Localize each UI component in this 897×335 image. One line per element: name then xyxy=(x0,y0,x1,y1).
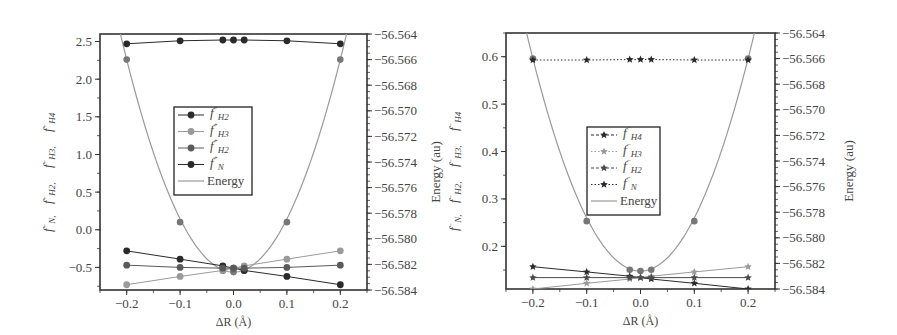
y-tick-label: 0.2 xyxy=(482,239,498,254)
legend-marker xyxy=(188,161,195,168)
y2-tick-label: −56.564 xyxy=(782,26,826,41)
y2-tick-label: −56.578 xyxy=(374,206,417,221)
figure: −0.2−0.10.00.10.2ΔR (Å)−0.50.00.51.01.52… xyxy=(0,0,897,335)
y2-axis-label: Energy (au) xyxy=(841,140,856,201)
x-tick-label: −0.2 xyxy=(115,296,139,311)
energy-point xyxy=(177,219,184,226)
data-point xyxy=(529,263,537,270)
x-axis: −0.2−0.10.00.10.2ΔR (Å) xyxy=(506,289,775,328)
data-point xyxy=(284,264,291,271)
data-point xyxy=(177,264,184,271)
y-axis-left: 0.20.30.40.50.6f−N,f−H2,f−H3,f−H4 xyxy=(446,33,506,270)
data-point xyxy=(337,281,344,288)
data-point xyxy=(691,56,699,63)
legend-marker xyxy=(188,112,195,119)
x-axis-label: ΔR (Å) xyxy=(623,314,658,328)
data-point xyxy=(691,279,699,286)
y2-tick-label: −56.576 xyxy=(374,180,418,195)
x-tick-label: 0.0 xyxy=(632,295,648,310)
data-point xyxy=(177,273,184,280)
y2-tick-label: −56.584 xyxy=(374,283,418,298)
chart-left: −0.2−0.10.00.10.2ΔR (Å)−0.50.00.51.01.52… xyxy=(40,0,443,329)
data-point xyxy=(284,256,291,263)
y-tick-label: 1.0 xyxy=(76,147,92,162)
data-point xyxy=(529,274,537,281)
data-point xyxy=(583,279,591,286)
legend: f⁺H2f⁺H3f⁺H2f⁺NEnergy xyxy=(174,105,252,195)
data-point xyxy=(230,265,237,272)
data-point xyxy=(123,40,130,47)
y2-tick-label: −56.582 xyxy=(374,257,417,272)
data-point xyxy=(637,56,645,63)
data-point xyxy=(241,37,248,44)
legend: f⁻H4f⁻H3f⁻H2f⁻NEnergy xyxy=(587,125,660,215)
x-tick-label: 0.2 xyxy=(332,296,348,311)
data-point xyxy=(744,274,752,281)
x-tick-label: −0.2 xyxy=(521,295,545,310)
data-point xyxy=(647,56,655,63)
y2-tick-label: −56.572 xyxy=(782,128,825,143)
y-axis-label-part: f+N, xyxy=(40,215,57,232)
energy-point xyxy=(583,218,590,225)
data-point xyxy=(337,40,344,47)
y-tick-label: 1.5 xyxy=(76,109,92,124)
y2-tick-label: −56.576 xyxy=(782,179,826,194)
energy-point xyxy=(284,219,291,226)
y2-axis-label: Energy (au) xyxy=(428,141,443,202)
energy-point xyxy=(637,268,644,275)
x-tick-label: 0.1 xyxy=(279,296,295,311)
data-point xyxy=(744,263,752,270)
data-point xyxy=(123,247,130,254)
energy-point xyxy=(337,56,344,63)
y-axis-right: −56.564−56.566−56.568−56.570−56.572−56.5… xyxy=(775,26,856,297)
y-axis-label: f+N,f+H2,f+H3,f+H4 xyxy=(40,112,57,232)
y2-tick-label: −56.578 xyxy=(782,205,825,220)
y-axis-label-part: f−H2, xyxy=(446,181,463,203)
y-axis-label-part: f−H3, xyxy=(446,145,463,167)
energy-point xyxy=(626,267,633,274)
legend-label: Energy xyxy=(207,173,245,188)
y2-tick-label: −56.580 xyxy=(782,230,825,245)
x-tick-label: 0.1 xyxy=(686,295,702,310)
y2-tick-label: −56.574 xyxy=(782,154,826,169)
y-axis-label-part: f−N, xyxy=(446,214,463,231)
series-fN xyxy=(529,56,752,64)
legend-marker xyxy=(188,128,195,135)
y-axis-label-part: f+H3, xyxy=(40,146,57,168)
data-point xyxy=(337,262,344,269)
y-tick-label: 0.5 xyxy=(76,185,92,200)
data-point xyxy=(626,56,634,63)
energy-point xyxy=(648,267,655,274)
data-point xyxy=(241,265,248,272)
data-point xyxy=(219,265,226,272)
y2-tick-label: −56.570 xyxy=(374,103,417,118)
x-tick-label: 0.0 xyxy=(225,296,241,311)
y-tick-label: 0.0 xyxy=(76,222,92,237)
data-point xyxy=(123,281,130,288)
data-point xyxy=(284,37,291,44)
y2-tick-label: −56.566 xyxy=(374,52,418,67)
data-point xyxy=(637,274,645,281)
y2-tick-label: −56.568 xyxy=(782,77,825,92)
y2-tick-label: −56.582 xyxy=(782,256,825,271)
data-point xyxy=(583,56,591,63)
y-axis-label-part: f+H4 xyxy=(40,112,57,132)
y-axis-label-part: f−H4 xyxy=(446,111,463,131)
data-point xyxy=(284,273,291,280)
series-fH4 xyxy=(123,262,343,272)
y2-tick-label: −56.564 xyxy=(374,27,418,42)
y2-tick-label: −56.574 xyxy=(374,155,418,170)
x-axis: −0.2−0.10.00.10.2ΔR (Å) xyxy=(100,290,367,329)
series-fN xyxy=(123,37,343,48)
series-fH2 xyxy=(529,274,752,281)
legend-label: Energy xyxy=(620,193,658,208)
y2-tick-label: −56.568 xyxy=(374,78,417,93)
legend-marker xyxy=(188,145,195,152)
y2-tick-label: −56.570 xyxy=(782,102,825,117)
data-point xyxy=(177,256,184,263)
data-point xyxy=(230,37,237,44)
y-axis-label: f−N,f−H2,f−H3,f−H4 xyxy=(446,111,463,231)
x-axis-label: ΔR (Å) xyxy=(216,315,251,329)
x-tick-label: −0.1 xyxy=(575,295,599,310)
y-tick-label: 0.4 xyxy=(482,144,499,159)
